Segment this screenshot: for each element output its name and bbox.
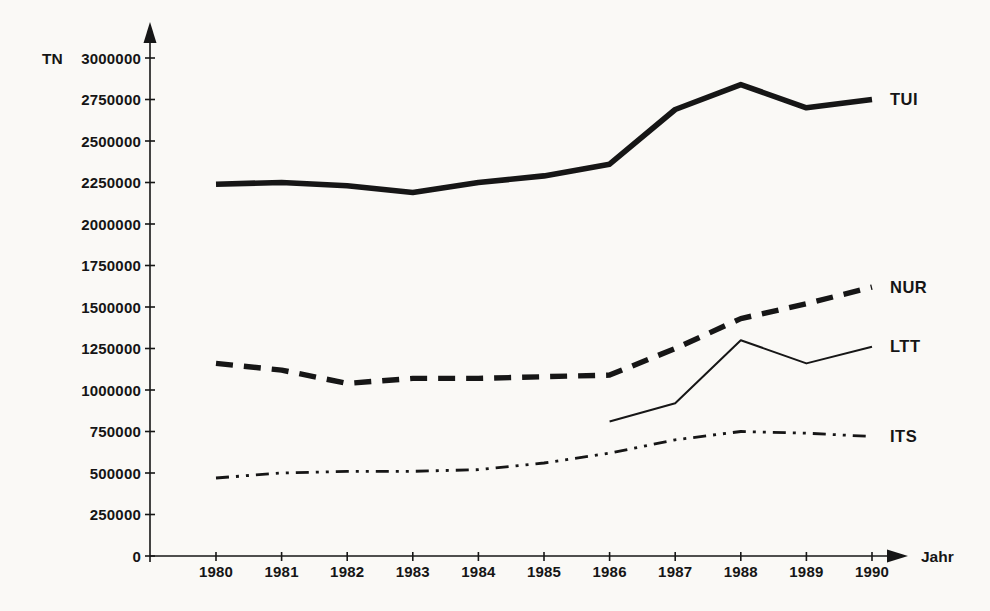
y-tick-label: 1250000	[81, 340, 141, 357]
line-chart: 0250000500000750000100000012500001500000…	[0, 0, 990, 611]
series-line-nur	[216, 287, 872, 383]
y-tick-label: 2000000	[81, 216, 141, 233]
x-tick-label: 1981	[265, 563, 299, 580]
series-label-ltt: LTT	[890, 337, 921, 355]
series-label-tui: TUI	[890, 90, 918, 108]
y-tick-label: 750000	[90, 423, 141, 440]
x-axis-title: Jahr	[921, 548, 954, 565]
series-label-nur: NUR	[890, 278, 927, 296]
y-tick-label: 2250000	[81, 174, 141, 191]
y-tick-label: 1500000	[81, 299, 141, 316]
y-tick-label: 0	[132, 548, 141, 565]
x-tick-label: 1989	[789, 563, 823, 580]
x-tick-label: 1980	[199, 563, 233, 580]
series-label-its: ITS	[890, 427, 917, 445]
scanned-figure-page: 0250000500000750000100000012500001500000…	[0, 0, 990, 611]
series-line-ltt	[610, 340, 872, 421]
x-tick-label: 1982	[330, 563, 364, 580]
x-tick-label: 1983	[396, 563, 430, 580]
x-tick-label: 1984	[461, 563, 496, 580]
series-line-tui	[216, 85, 872, 193]
y-tick-label: 2500000	[81, 133, 141, 150]
y-tick-label: 250000	[90, 506, 141, 523]
x-tick-label: 1988	[724, 563, 758, 580]
x-tick-label: 1990	[855, 563, 889, 580]
y-tick-label: 2750000	[81, 91, 141, 108]
y-tick-label: 500000	[90, 465, 141, 482]
y-tick-label: 1750000	[81, 257, 141, 274]
y-tick-label: 3000000	[81, 50, 141, 67]
x-tick-label: 1987	[658, 563, 692, 580]
series-line-its	[216, 432, 872, 479]
x-tick-label: 1986	[593, 563, 627, 580]
y-axis-arrow-icon	[144, 22, 157, 43]
x-axis-arrow-icon	[887, 550, 908, 563]
y-tick-label: 1000000	[81, 382, 141, 399]
y-axis-title: TN	[42, 50, 63, 67]
x-tick-label: 1985	[527, 563, 561, 580]
